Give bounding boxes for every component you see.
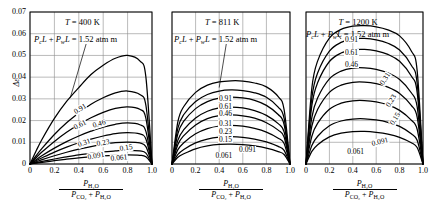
x-axis-numerator: PH₂O [333, 179, 397, 189]
curve-0p91 [306, 26, 423, 164]
x-tick-label: 0.2 [320, 167, 338, 175]
x-tick-label: 0 [297, 167, 315, 175]
curve-label-0p91: 0.91 [344, 36, 358, 44]
curve-group [306, 26, 423, 164]
x-tick-label: 0.8 [391, 167, 409, 175]
curve-label-0p061: 0.061 [347, 148, 365, 156]
curve-label-0p46: 0.46 [344, 61, 358, 69]
x-axis-denominator: PCO₂ + PH₂O [333, 189, 397, 200]
x-tick-label: 0.4 [344, 167, 362, 175]
x-tick-label: 0.6 [367, 167, 385, 175]
curve-0p46 [306, 49, 423, 164]
curve-0p091 [306, 119, 423, 164]
panel-title-1200k: T = 1200 K [339, 17, 378, 27]
x-axis-label: PH₂OPCO₂ + PH₂O [333, 179, 397, 200]
curve-label-0p61: 0.61 [344, 49, 358, 57]
x-tick-label: 1.0 [414, 167, 432, 175]
